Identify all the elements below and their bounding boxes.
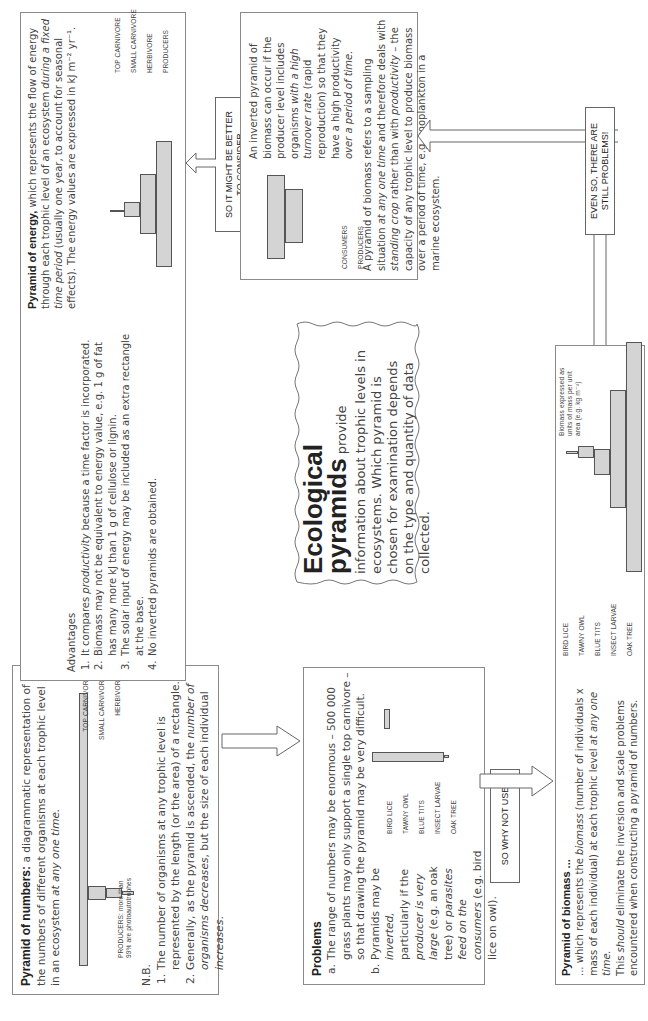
energy-intro: Pyramid of energy, which represents the … bbox=[26, 19, 78, 309]
bar-insect-larvae bbox=[610, 390, 626, 508]
bar-blue-tits bbox=[594, 449, 610, 475]
problems-title: Problems bbox=[310, 676, 324, 976]
label-blue-tits: BLUE TITS bbox=[418, 800, 425, 834]
label-tawny-owl: TAWNY OWL bbox=[578, 615, 585, 656]
label-top-carnivore: TOP CARNIVORE bbox=[114, 17, 121, 73]
numbers-title: Pyramid of numbers: bbox=[19, 866, 33, 986]
label-bird-lice: BIRD LICE bbox=[386, 801, 393, 834]
nb-item-2: 2.Generally, as the pyramid is ascended,… bbox=[183, 671, 227, 986]
bar-herbivore bbox=[140, 174, 156, 234]
label-herbivore: HERBIVORE bbox=[114, 676, 121, 716]
numbers-intro: Pyramid of numbers: a diagrammatic repre… bbox=[19, 674, 63, 986]
label-insect-larvae: INSECT LARVAE bbox=[610, 603, 617, 656]
connector-line bbox=[590, 235, 620, 345]
bar-blue-tits-left bbox=[384, 709, 390, 729]
bar-top-carnivore bbox=[110, 210, 124, 212]
energy-box: Pyramid of energy, which represents the … bbox=[20, 12, 186, 318]
inverted-pyramid-box: CONSUMERS PRODUCERS An inverted pyramid … bbox=[240, 12, 418, 280]
bar-tawny-owl bbox=[578, 446, 594, 458]
biomass-title: Pyramid of biomass ... bbox=[560, 686, 573, 976]
inverted-paragraph-1: An inverted pyramid of biomass can occur… bbox=[247, 19, 356, 159]
label-top-carnivore: TOP CARNIVORE bbox=[82, 676, 89, 732]
label-producers: PRODUCERS bbox=[162, 30, 169, 73]
ecological-heading-2: pyramids bbox=[322, 458, 352, 574]
ecological-body: information about trophic levels in ecos… bbox=[353, 342, 433, 574]
numbers-box: Pyramid of numbers: a diagrammatic repre… bbox=[12, 665, 219, 995]
bar-consumers bbox=[267, 175, 285, 259]
producer-note-1: PRODUCERS: more than bbox=[117, 881, 124, 958]
ecological-pyramids-box: Ecological pyramids provide information … bbox=[300, 329, 415, 574]
problem-a: a.The range of numbers may be enormous –… bbox=[324, 665, 368, 976]
biomass-box: Pyramid of biomass ... ... which represe… bbox=[555, 345, 645, 985]
advantage-1: 1.It compares productivity because a tim… bbox=[79, 332, 93, 672]
label-tawny-owl: TAWNY OWL bbox=[402, 793, 409, 834]
label-bird-lice: BIRD LICE bbox=[562, 623, 569, 656]
energy-title: Pyramid of energy, bbox=[26, 211, 38, 309]
bar-small-carnivore bbox=[124, 202, 140, 217]
bar-producers bbox=[285, 189, 303, 243]
bar-herbivore bbox=[88, 886, 106, 900]
bar-oak-tree bbox=[372, 752, 444, 762]
label-blue-tits: BLUE TITS bbox=[594, 622, 601, 656]
bar-oak-tree bbox=[626, 342, 642, 572]
label-herbivore: HERBIVORE bbox=[146, 33, 153, 73]
nb-item-1: 1.The number of organisms at any trophic… bbox=[154, 671, 183, 986]
advantages: Advantages 1.It compares productivity be… bbox=[65, 332, 160, 672]
problem-b: b.Pyramids may be inverted, particularly… bbox=[368, 850, 499, 976]
arrow-down-icon bbox=[480, 766, 555, 796]
advantage-3: 3.The solar input of energy may be inclu… bbox=[119, 332, 146, 672]
producer-note-2: 99% are photoautotrophes bbox=[125, 878, 132, 958]
label-consumers: CONSUMERS bbox=[341, 225, 348, 269]
bar-producers bbox=[156, 141, 172, 267]
arrow-up-icon bbox=[186, 153, 216, 173]
bar-insect-larvae bbox=[444, 755, 449, 758]
advantage-2: 2.Biomass may not be equivalent to energ… bbox=[92, 332, 119, 672]
arrow-down-icon bbox=[222, 726, 302, 756]
label-insect-larvae: INSECT LARVAE bbox=[434, 781, 441, 834]
even-so-label: EVEN SO, THERE ARE STILL PROBLEMS! bbox=[585, 107, 615, 235]
label-oak-tree: OAK TREE bbox=[626, 622, 633, 656]
advantage-4: 4.No inverted pyramids are obtained. bbox=[146, 332, 160, 672]
bar-bird-lice bbox=[566, 451, 578, 454]
textbook-page: Pyramid of numbers: a diagrammatic repre… bbox=[0, 0, 648, 1021]
numbers-nb: N.B. 1.The number of organisms at any tr… bbox=[139, 671, 227, 986]
bar-producers bbox=[79, 693, 88, 966]
label-small-carnivore: SMALL CARNIVORE bbox=[130, 9, 137, 73]
label-oak-tree: OAK TREE bbox=[450, 800, 457, 834]
label-small-carnivore: SMALL CARNIVORE bbox=[98, 676, 105, 740]
biomass-text: Pyramid of biomass ... ... which represe… bbox=[560, 686, 640, 976]
energy-advantages-box: Advantages 1.It compares productivity be… bbox=[20, 317, 186, 681]
problems-box: Problems a.The range of numbers may be e… bbox=[303, 667, 485, 985]
